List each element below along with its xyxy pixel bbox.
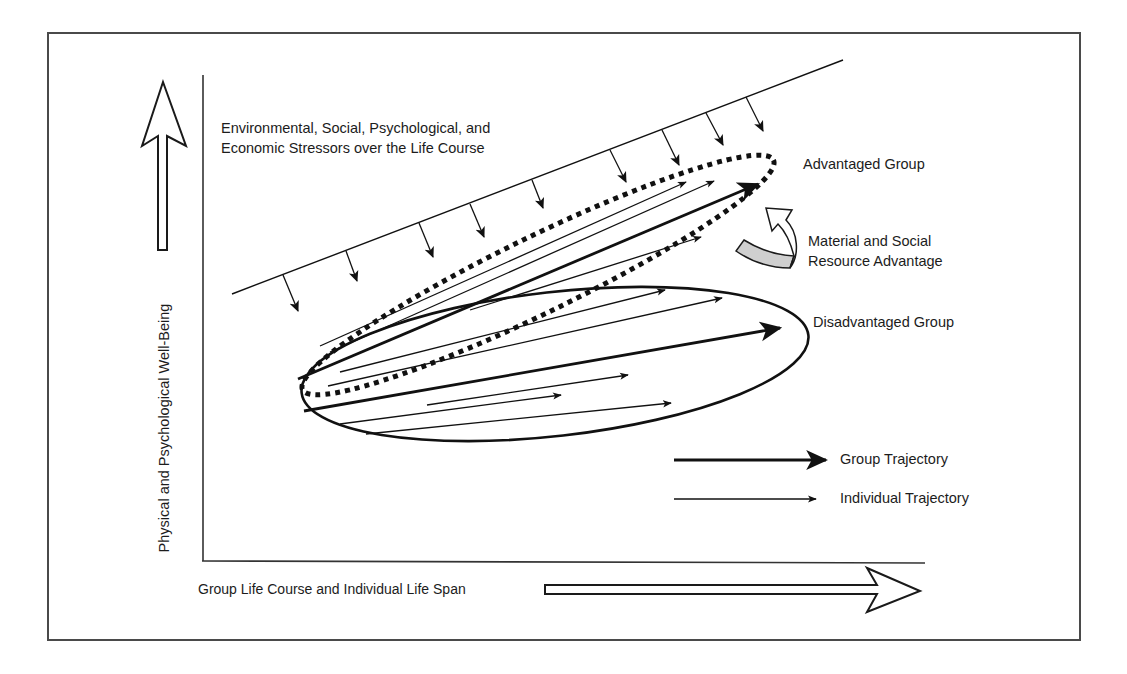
advantaged-group-ellipse <box>286 126 790 424</box>
stressor-arrow <box>283 275 298 311</box>
stressor-arrow <box>746 97 763 131</box>
stressor-arrow <box>419 223 433 257</box>
disadvantaged-trajectories <box>304 290 780 434</box>
resource-advantage-curved-arrow-icon <box>736 208 796 268</box>
group-trajectory-arrow <box>298 184 758 379</box>
advantaged-group-label: Advantaged Group <box>803 155 925 174</box>
x-axis-line <box>202 561 925 563</box>
resource-label-line1: Material and Social <box>808 232 931 251</box>
stressors-label-line2: Economic Stressors over the Life Course <box>221 139 485 158</box>
stressor-arrow <box>610 150 626 182</box>
right-hollow-arrow-icon <box>545 568 920 612</box>
legend-individual-trajectory-label: Individual Trajectory <box>840 489 969 508</box>
stressor-arrow <box>662 130 679 165</box>
up-hollow-arrow-icon <box>142 82 186 250</box>
legend-group-trajectory-label: Group Trajectory <box>840 450 948 469</box>
stressors-label-line1: Environmental, Social, Psychological, an… <box>221 119 490 138</box>
resource-label-line2: Resource Advantage <box>808 252 943 271</box>
stressor-arrow <box>532 180 543 208</box>
stressor-arrow <box>470 204 484 237</box>
individual-trajectory-arrow <box>340 290 665 372</box>
individual-trajectory-arrow <box>366 403 671 434</box>
stressor-arrow <box>346 251 357 281</box>
y-axis-label: Physical and Psychological Well-Being <box>156 304 172 553</box>
individual-trajectory-arrow <box>320 182 686 346</box>
x-axis-label: Group Life Course and Individual Life Sp… <box>198 580 466 599</box>
disadvantaged-group-label: Disadvantaged Group <box>813 313 954 332</box>
advantaged-trajectories <box>298 181 758 379</box>
group-trajectory-arrow <box>304 328 780 411</box>
stressor-arrow <box>706 113 723 145</box>
individual-trajectory-arrow <box>427 375 628 405</box>
legend <box>674 460 826 499</box>
